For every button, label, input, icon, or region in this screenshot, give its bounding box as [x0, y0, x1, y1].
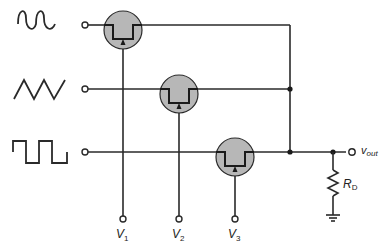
triangle-wave-icon	[14, 80, 65, 99]
resistor-label: RD	[343, 177, 358, 192]
sine-wave-icon	[18, 11, 55, 29]
input-terminal-1	[82, 22, 88, 28]
control-terminal-2	[176, 216, 182, 222]
ground-icon	[326, 215, 340, 221]
control-label-v1: V1	[116, 227, 129, 243]
fet-switch-1	[104, 11, 142, 49]
output-terminal	[349, 149, 355, 155]
junction-node-bus-3	[287, 149, 292, 154]
junction-node-bus-2	[287, 86, 292, 91]
load-resistor	[328, 152, 338, 215]
mux-circuit-diagram: vout RD V1 V2 V3	[0, 0, 389, 251]
input-terminal-2	[82, 86, 88, 92]
control-terminal-3	[232, 216, 238, 222]
fet-switch-2	[160, 75, 198, 113]
output-label: vout	[361, 144, 378, 158]
control-terminal-1	[120, 216, 126, 222]
control-label-v3: V3	[228, 227, 241, 243]
square-wave-icon	[13, 141, 67, 163]
control-label-v2: V2	[172, 227, 185, 243]
fet-switch-3	[216, 138, 254, 176]
input-terminal-3	[82, 149, 88, 155]
